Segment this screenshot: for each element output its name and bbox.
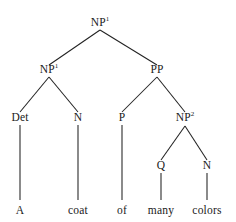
edge-root-to-pp	[100, 30, 157, 65]
edge-np2-to-n2	[185, 126, 207, 160]
edge-np2-to-q	[161, 126, 185, 160]
terminal-coat: coat	[68, 205, 88, 217]
edge-np1-to-n1	[49, 77, 78, 112]
node-p: P	[119, 112, 126, 124]
terminal-of: of	[117, 205, 127, 217]
edge-pp-to-np2	[157, 77, 185, 112]
edge-root-to-np1	[49, 30, 100, 65]
edge-pp-to-p	[122, 77, 157, 112]
terminal-colors: colors	[192, 205, 221, 217]
edge-np1-to-det	[20, 77, 49, 112]
node-pp: PP	[150, 64, 163, 76]
node-q: Q	[157, 160, 166, 172]
node-n2: N	[203, 160, 212, 172]
node-det: Det	[11, 112, 28, 124]
node-np2: NP2	[176, 112, 195, 124]
node-n1: N	[74, 112, 83, 124]
node-np1: NP1	[40, 64, 59, 76]
syntax-tree-diagram: NP1 NP1 PP Det N P NP2 Q N A coat of man…	[0, 0, 236, 222]
terminal-a: A	[16, 205, 25, 217]
terminal-many: many	[148, 205, 174, 217]
node-root-np1: NP1	[91, 17, 110, 29]
